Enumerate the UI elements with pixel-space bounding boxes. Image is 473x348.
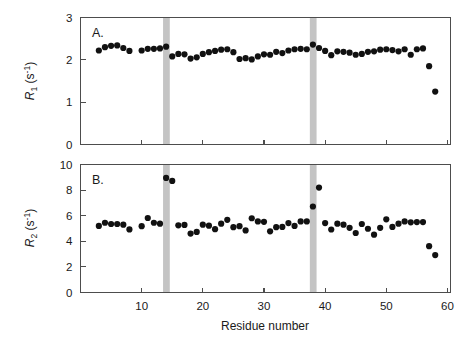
- data-point: [395, 48, 401, 54]
- data-point: [285, 220, 291, 226]
- data-point: [402, 46, 408, 52]
- data-point: [255, 218, 261, 224]
- panel-a: 0123 A. R1 (s-1): [22, 12, 451, 151]
- x-tick-label: 50: [380, 300, 393, 312]
- data-point: [175, 222, 181, 228]
- panel-a-frame: [81, 18, 451, 145]
- data-point: [175, 51, 181, 57]
- panel-b-ylabel-symbol: R: [23, 238, 37, 247]
- data-point: [108, 221, 114, 227]
- highlight-band: [163, 165, 170, 293]
- data-point: [426, 63, 432, 69]
- data-point: [414, 219, 420, 225]
- panel-b-ylabel: R2 (s-1): [22, 209, 39, 247]
- data-point: [267, 228, 273, 234]
- data-point: [365, 226, 371, 232]
- data-point: [316, 45, 322, 51]
- panel-b-points: [96, 175, 439, 258]
- data-point: [377, 47, 383, 53]
- data-point: [383, 216, 389, 222]
- y-tick-label: 6: [66, 210, 72, 222]
- panel-b-yticks: 0246810: [60, 159, 86, 299]
- panel-a-bands: [163, 18, 317, 145]
- data-point: [181, 222, 187, 228]
- data-point: [157, 45, 163, 51]
- data-point: [279, 224, 285, 230]
- data-point: [420, 219, 426, 225]
- data-point: [236, 223, 242, 229]
- panel-b: 0246810 102030405060 B. R2 (s-1): [22, 159, 454, 312]
- panel-b-xticks: 102030405060: [135, 288, 454, 312]
- data-point: [328, 226, 334, 232]
- y-tick-label: 1: [66, 96, 72, 108]
- panel-a-ylabel: R1 (s-1): [22, 62, 39, 100]
- data-point: [261, 219, 267, 225]
- data-point: [377, 225, 383, 231]
- panel-a-xticks: [142, 140, 448, 145]
- data-point: [200, 222, 206, 228]
- panel-b-ylabel-paren: ): [23, 209, 37, 213]
- data-point: [218, 221, 224, 227]
- y-tick-label: 8: [66, 184, 72, 196]
- data-point: [334, 221, 340, 227]
- data-point: [408, 219, 414, 225]
- data-point: [346, 225, 352, 231]
- data-point: [151, 46, 157, 52]
- data-point: [389, 47, 395, 53]
- data-point: [145, 46, 151, 52]
- data-point: [157, 221, 163, 227]
- data-point: [120, 222, 126, 228]
- data-point: [316, 184, 322, 190]
- data-point: [426, 243, 432, 249]
- data-point: [126, 48, 132, 54]
- data-point: [279, 50, 285, 56]
- data-point: [322, 48, 328, 54]
- data-point: [395, 221, 401, 227]
- data-point: [298, 46, 304, 52]
- data-point: [371, 232, 377, 238]
- data-point: [181, 51, 187, 57]
- data-point: [346, 50, 352, 56]
- data-point: [340, 222, 346, 228]
- data-point: [432, 88, 438, 94]
- data-point: [359, 51, 365, 57]
- panel-a-ylabel-paren: ): [23, 62, 37, 66]
- data-point: [291, 46, 297, 52]
- data-point: [365, 49, 371, 55]
- data-point: [389, 224, 395, 230]
- data-point: [432, 252, 438, 258]
- panel-b-letter: B.: [92, 173, 104, 187]
- data-point: [169, 53, 175, 59]
- data-point: [200, 51, 206, 57]
- panel-b-ylabel-units: (s: [23, 220, 37, 233]
- data-point: [151, 220, 157, 226]
- data-point: [230, 224, 236, 230]
- data-point: [139, 223, 145, 229]
- y-tick-label: 10: [60, 159, 73, 171]
- data-point: [102, 44, 108, 50]
- data-point: [249, 56, 255, 62]
- data-point: [187, 231, 193, 237]
- data-point: [206, 223, 212, 229]
- data-point: [243, 55, 249, 61]
- data-point: [230, 49, 236, 55]
- data-point: [145, 215, 151, 221]
- y-tick-label: 2: [66, 261, 72, 273]
- data-point: [255, 53, 261, 59]
- y-tick-label: 4: [66, 235, 73, 247]
- data-point: [102, 220, 108, 226]
- panel-a-letter: A.: [92, 26, 104, 40]
- data-point: [96, 47, 102, 53]
- panel-a-ylabel-units: (s: [23, 73, 37, 86]
- data-point: [218, 47, 224, 53]
- data-point: [212, 48, 218, 54]
- data-point: [194, 54, 200, 60]
- data-point: [291, 223, 297, 229]
- x-tick-label: 10: [135, 300, 148, 312]
- y-tick-label: 2: [66, 54, 72, 66]
- x-tick-label: 20: [196, 300, 209, 312]
- data-point: [114, 221, 120, 227]
- panel-a-points: [96, 41, 439, 94]
- data-point: [224, 46, 230, 52]
- data-point: [383, 46, 389, 52]
